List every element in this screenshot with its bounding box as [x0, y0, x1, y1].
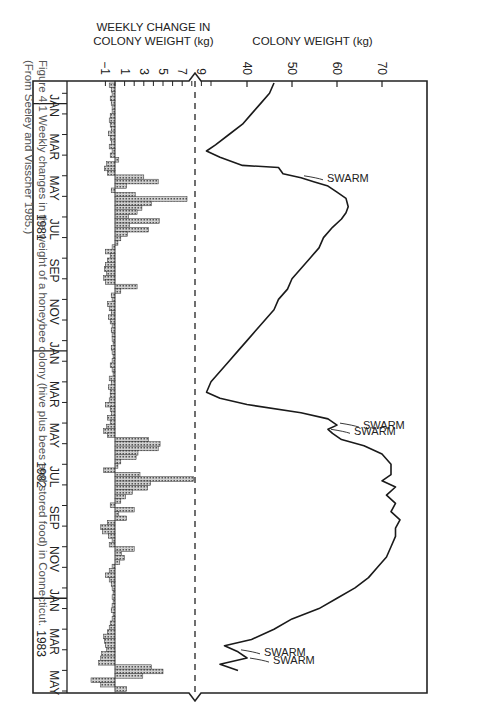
weekly-change-bar	[111, 188, 115, 193]
weekly-change-bar	[115, 459, 121, 464]
weekly-change-bar	[115, 214, 128, 219]
weekly-change-bar	[105, 249, 115, 254]
weekly-change-bar	[103, 529, 116, 534]
colony-weight-line	[207, 83, 401, 670]
swarm-label: SWARM	[354, 425, 396, 437]
swarm-label: SWARM	[327, 172, 369, 184]
swarm-annotation: SWARM	[250, 654, 315, 666]
weekly-change-bar	[107, 415, 115, 420]
weekly-change-bar	[108, 131, 115, 136]
weekly-change-bar	[101, 656, 115, 661]
weekly-change-bar	[115, 547, 134, 552]
weekly-change-bar	[104, 639, 115, 644]
weekly-change-bar	[115, 455, 136, 460]
weekly-change-bar	[104, 429, 116, 434]
change-tick-label: 7	[175, 68, 189, 75]
weekly-change-bar	[112, 604, 115, 609]
weekly-change-bar	[115, 179, 158, 184]
weekly-change-bar	[111, 101, 115, 106]
weekly-change-bar	[115, 192, 135, 197]
weekly-change-bar	[115, 227, 149, 232]
weekly-change-bar	[106, 162, 115, 167]
weekly-change-bar	[115, 289, 121, 294]
weekly-change-bar	[110, 319, 115, 324]
weekly-change-bar	[115, 499, 121, 504]
weight-tick-label: 70	[375, 62, 389, 76]
weekly-change-bar	[115, 669, 163, 674]
weekly-change-bar	[115, 446, 158, 451]
weekly-change-bar	[110, 363, 115, 368]
weekly-change-bar	[112, 297, 115, 302]
weekly-change-bar	[106, 647, 115, 652]
weekly-change-bar	[111, 87, 115, 92]
weekly-change-bar	[112, 586, 115, 591]
weekly-change-bar	[115, 241, 118, 246]
weekly-change-bar	[110, 136, 115, 141]
weekly-change-bar	[109, 306, 115, 311]
weekly-change-bar	[112, 337, 115, 342]
weekly-change-bar	[111, 608, 115, 613]
weekly-change-bar	[104, 267, 115, 272]
weekly-change-bar	[111, 293, 115, 298]
weekly-change-bar	[105, 280, 115, 285]
weekly-change-bar	[115, 206, 142, 211]
change-tick-label: −1	[98, 61, 112, 75]
swarm-arrow	[250, 658, 269, 662]
weekly-change-bar	[105, 262, 115, 267]
weekly-change-bar	[115, 472, 140, 477]
weekly-change-bar	[106, 271, 115, 276]
weekly-change-bar	[115, 175, 144, 180]
weekly-change-bar	[115, 494, 126, 499]
weekly-change-bar	[115, 477, 194, 482]
weekly-change-bar	[115, 507, 134, 512]
weekly-change-bar	[106, 424, 115, 429]
weight-tick-label: 40	[240, 62, 254, 76]
weekly-change-bar	[109, 376, 115, 381]
weekly-change-bar	[111, 311, 115, 316]
weekly-change-bar	[105, 573, 115, 578]
weekly-change-bar	[112, 367, 115, 372]
weight-tick-label: 50	[285, 62, 299, 76]
weekly-change-bar	[112, 617, 115, 622]
weekly-change-bar	[107, 302, 115, 307]
weekly-change-bar	[115, 284, 137, 289]
weekly-change-bar	[111, 345, 115, 350]
weekly-change-bar	[111, 411, 115, 416]
weekly-change-bar-chart	[91, 81, 194, 693]
weekly-change-bar	[110, 394, 115, 399]
caption-line-1: Figure 4.1 Weekly changes in the weight …	[36, 60, 50, 680]
weekly-change-bar	[101, 525, 115, 530]
swarm-arrow	[241, 650, 260, 654]
weekly-change-bar	[108, 385, 115, 390]
weekly-change-bar	[111, 127, 115, 132]
weekly-change-bar	[109, 569, 115, 574]
weekly-change-bar	[110, 96, 115, 101]
weekly-change-bar	[91, 678, 115, 683]
figure: SWARMSWARMSWARMSWARMSWARM JANMARMAYJULSE…	[0, 0, 487, 726]
weekly-change-bar	[109, 577, 115, 582]
chart-frame	[33, 73, 427, 701]
honeybee-weight-chart: SWARMSWARMSWARMSWARMSWARM JANMARMAYJULSE…	[0, 0, 487, 726]
change-tick-label: 3	[137, 68, 151, 75]
weekly-change-bar	[112, 105, 115, 110]
weekly-change-bar	[115, 555, 125, 560]
weekly-change-bar	[110, 407, 115, 412]
weekly-change-bar	[115, 687, 127, 692]
frame-outline	[33, 73, 427, 701]
weekly-change-bar	[112, 350, 115, 355]
change-tick-label: 5	[156, 68, 170, 75]
weekly-change-bar	[112, 149, 115, 154]
weekly-change-bar	[101, 682, 115, 687]
weekly-change-bar	[109, 83, 115, 88]
weekly-change-bar	[107, 433, 115, 438]
weekly-change-bar	[110, 420, 115, 425]
weekly-change-bar	[112, 245, 115, 250]
weekly-change-bar	[115, 157, 119, 162]
weekly-change-bar	[115, 450, 138, 455]
weekly-change-bar	[111, 582, 115, 587]
weekly-change-bar	[109, 144, 115, 149]
weekly-change-bar	[115, 184, 127, 189]
swarm-annotation: SWARM	[331, 425, 396, 437]
weekly-change-bar	[107, 258, 115, 263]
weekly-change-bar	[102, 652, 115, 657]
